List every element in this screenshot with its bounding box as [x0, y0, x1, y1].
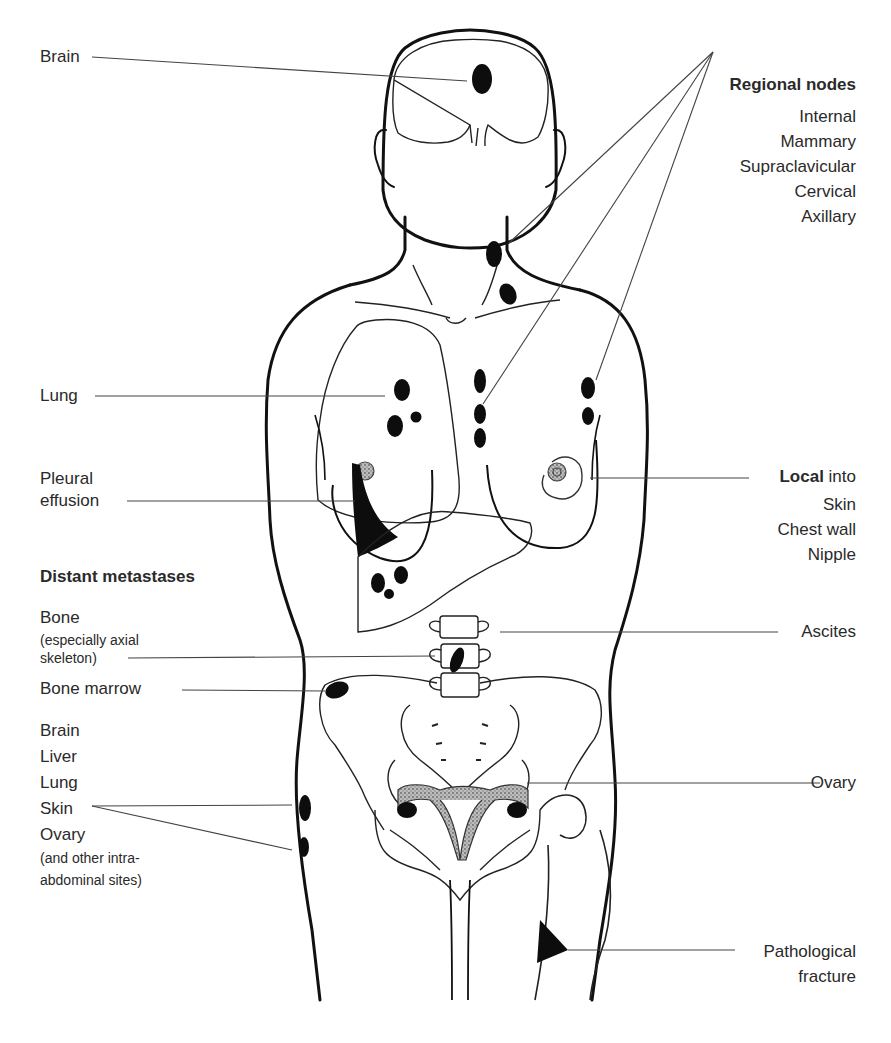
lung-lesion [394, 379, 410, 401]
heading-distant-metastases: Distant metastases [40, 566, 195, 588]
label-bone-note: (especially axial skeleton) [40, 631, 139, 667]
skin-lesion [299, 795, 311, 821]
label-bone: Bone [40, 607, 80, 629]
liver-lesion [371, 573, 385, 593]
regional-cervical: Cervical [740, 179, 856, 204]
regional-supraclavicular: Supraclavicular [740, 154, 856, 179]
liver-lesion [384, 589, 394, 599]
label-bone-note-line1: (especially axial [40, 631, 139, 649]
label-brain: Brain [40, 46, 80, 68]
label-pleural-line1: Pleural [40, 468, 99, 490]
label-pleural-effusion: Pleural effusion [40, 468, 99, 512]
brain [393, 39, 548, 146]
distant-site-lung: Lung [40, 770, 85, 796]
internal-mammary-node [474, 369, 486, 393]
distant-site-brain: Brain [40, 718, 85, 744]
lung-lesion [387, 415, 403, 437]
fracture-line1: Pathological [763, 939, 856, 964]
distant-site-ovary: Ovary [40, 822, 85, 848]
brain-lesion [472, 64, 492, 94]
label-local-bold: Local [779, 467, 823, 486]
neck-left [350, 217, 405, 285]
regional-axillary: Axillary [740, 204, 856, 229]
ovary-right [507, 802, 527, 818]
bone-marrow-lesion [323, 678, 351, 701]
regional-internal: Internal [740, 104, 856, 129]
right-femur [535, 795, 610, 1000]
torso-left [266, 285, 350, 1000]
legs [450, 880, 470, 1000]
label-lung: Lung [40, 385, 78, 407]
ovary-left [397, 802, 417, 818]
heading-regional-nodes: Regional nodes [729, 74, 856, 96]
cervical-node [486, 241, 502, 267]
label-ascites: Ascites [801, 621, 856, 643]
local-chest-wall: Chest wall [778, 517, 856, 542]
axillary-node [582, 407, 594, 425]
local-skin: Skin [778, 492, 856, 517]
internal-mammary-node [474, 428, 486, 448]
label-local: Local into [779, 466, 856, 488]
list-distant-sites: Brain Liver Lung Skin Ovary [40, 718, 85, 848]
distant-site-skin: Skin [40, 796, 85, 822]
distant-note-line2: abdominal sites) [40, 869, 142, 891]
nipple-right-lesion [542, 457, 582, 499]
skin-lesion [299, 837, 309, 857]
uterus [398, 785, 528, 860]
fracture-wedge [537, 920, 568, 963]
distant-site-liver: Liver [40, 744, 85, 770]
label-ovary: Ovary [811, 772, 856, 794]
axillary-node [581, 377, 595, 399]
label-distant-note: (and other intra- abdominal sites) [40, 847, 142, 891]
label-local-suffix: into [824, 467, 856, 486]
list-local-sites: Skin Chest wall Nipple [778, 492, 856, 567]
fracture-line2: fracture [763, 964, 856, 989]
regional-mammary: Mammary [740, 129, 856, 154]
distant-note-line1: (and other intra- [40, 847, 142, 869]
liver-lesion [394, 566, 408, 584]
neck-right [507, 217, 580, 290]
supraclavicular-node [496, 281, 520, 308]
label-pleural-line2: effusion [40, 490, 99, 512]
label-bone-marrow: Bone marrow [40, 678, 141, 700]
label-bone-note-line2: skeleton) [40, 649, 139, 667]
lung-lesion [411, 412, 422, 423]
list-regional-nodes: Internal Mammary Supraclavicular Cervica… [740, 104, 856, 229]
pleural-effusion-wedge [352, 463, 398, 557]
clavicles [355, 262, 560, 323]
internal-mammary-node [474, 404, 486, 424]
local-nipple: Nipple [778, 542, 856, 567]
label-pathological-fracture: Pathological fracture [763, 939, 856, 989]
